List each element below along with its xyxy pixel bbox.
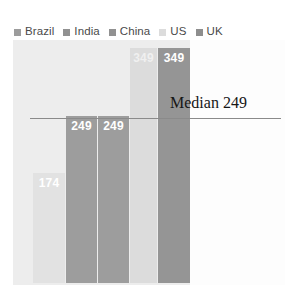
legend-item-china[interactable]: China — [109, 26, 151, 38]
bar-us[interactable]: 349 — [130, 48, 157, 283]
chart-right-margin — [285, 0, 289, 305]
bar-uk[interactable]: 349 — [158, 48, 190, 283]
legend-item-india[interactable]: India — [63, 26, 99, 38]
chart-left-margin — [0, 0, 13, 305]
legend-swatch-us-icon — [159, 29, 166, 36]
legend-label-us: US — [170, 26, 186, 38]
bar-value-us: 349 — [130, 52, 157, 65]
legend-swatch-brazil-icon — [14, 29, 21, 36]
bar-value-brazil: 174 — [33, 177, 65, 190]
median-label: Median 249 — [170, 95, 247, 111]
legend-label-china: China — [120, 26, 151, 38]
legend-swatch-uk-icon — [196, 29, 203, 36]
median-reference-line — [30, 118, 281, 119]
bar-value-india: 249 — [66, 120, 97, 133]
legend-label-brazil: Brazil — [25, 26, 54, 38]
legend-item-brazil[interactable]: Brazil — [14, 26, 54, 38]
chart-legend: Brazil India China US UK — [14, 22, 276, 42]
legend-swatch-china-icon — [109, 29, 116, 36]
legend-label-india: India — [74, 26, 99, 38]
chart-bottom-margin — [0, 285, 289, 305]
bar-value-china: 249 — [98, 120, 129, 133]
legend-item-uk[interactable]: UK — [196, 26, 223, 38]
legend-swatch-india-icon — [63, 29, 70, 36]
legend-item-us[interactable]: US — [159, 26, 186, 38]
chart-screenshot: 174 249 249 349 349 Median 249 Brazil In… — [0, 0, 289, 305]
bar-china[interactable]: 249 — [98, 116, 129, 283]
bar-value-uk: 349 — [158, 52, 190, 65]
bar-india[interactable]: 249 — [66, 116, 97, 283]
bar-brazil[interactable]: 174 — [33, 173, 65, 283]
bar-series: 174 249 249 349 349 — [0, 0, 289, 305]
legend-label-uk: UK — [207, 26, 223, 38]
